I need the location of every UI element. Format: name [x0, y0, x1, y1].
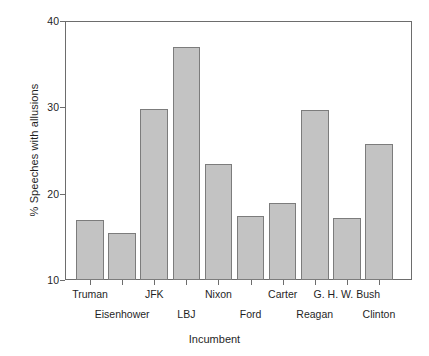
- y-tick-label: 30: [19, 102, 59, 113]
- y-tick-label: 40: [19, 16, 59, 27]
- x-tick-label: Truman: [72, 289, 108, 300]
- x-tick-mark: [218, 280, 219, 285]
- bar: [237, 216, 265, 280]
- x-tick-label: Carter: [268, 289, 297, 300]
- bar: [205, 164, 233, 280]
- bar: [140, 109, 168, 280]
- bar: [76, 220, 104, 280]
- y-tick-label: 20: [19, 189, 59, 200]
- x-tick-label: LBJ: [177, 309, 195, 320]
- bar: [173, 47, 201, 280]
- x-tick-mark: [315, 280, 316, 285]
- y-axis-title: % Speeches with allusions: [28, 40, 40, 260]
- bar-chart-figure: % Speeches with allusions 10203040 Truma…: [0, 0, 429, 356]
- x-tick-label: Clinton: [363, 309, 396, 320]
- x-tick-label: G. H. W. Bush: [314, 289, 381, 300]
- bar: [269, 203, 297, 280]
- x-tick-mark: [186, 280, 187, 285]
- x-tick-label: Ford: [240, 309, 262, 320]
- bar: [108, 233, 136, 280]
- x-tick-mark: [347, 280, 348, 285]
- y-tick-label: 10: [19, 275, 59, 286]
- y-tick-mark: [60, 280, 65, 281]
- x-tick-mark: [90, 280, 91, 285]
- x-axis-title: Incumbent: [0, 333, 429, 345]
- x-tick-mark: [283, 280, 284, 285]
- x-tick-mark: [122, 280, 123, 285]
- x-tick-label: Nixon: [205, 289, 232, 300]
- bar: [365, 144, 393, 280]
- bar-series: [65, 21, 412, 280]
- x-tick-label: Eisenhower: [95, 309, 150, 320]
- x-tick-mark: [251, 280, 252, 285]
- bar: [301, 110, 329, 280]
- x-tick-mark: [154, 280, 155, 285]
- x-tick-mark: [379, 280, 380, 285]
- x-tick-label: JFK: [145, 289, 164, 300]
- bar: [333, 218, 361, 280]
- x-tick-label: Reagan: [296, 309, 333, 320]
